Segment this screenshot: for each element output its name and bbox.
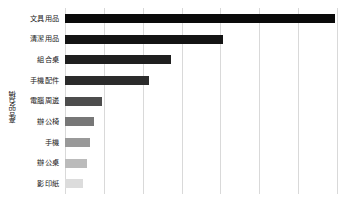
bar <box>65 97 102 106</box>
bar <box>65 35 223 44</box>
y-tick-label: 影印紙 <box>16 173 62 194</box>
y-tick-label: 辦公椅 <box>16 111 62 132</box>
bar-row <box>65 91 337 112</box>
bar-row <box>65 29 337 50</box>
bar-series <box>65 8 337 194</box>
bar-row <box>65 49 337 70</box>
bar <box>65 159 87 168</box>
horizontal-bar-chart: 產品名稱 文具用品 清潔用品 組合桌 手機配件 電腦周邊 辦公椅 手機 辦公桌 … <box>0 0 343 213</box>
bar <box>65 14 335 23</box>
y-tick-label: 文具用品 <box>16 8 62 29</box>
y-tick-label: 電腦周邊 <box>16 91 62 112</box>
y-tick-label: 辦公桌 <box>16 153 62 174</box>
plot-area <box>65 8 337 194</box>
bar-row <box>65 173 337 194</box>
y-tick-label: 手機 <box>16 132 62 153</box>
bar-row <box>65 8 337 29</box>
y-axis-tick-labels: 文具用品 清潔用品 組合桌 手機配件 電腦周邊 辦公椅 手機 辦公桌 影印紙 <box>16 8 62 194</box>
gridline <box>337 8 338 194</box>
bar <box>65 117 94 126</box>
bar <box>65 76 149 85</box>
bar <box>65 55 171 64</box>
y-tick-label: 手機配件 <box>16 70 62 91</box>
y-tick-label: 清潔用品 <box>16 29 62 50</box>
y-tick-label: 組合桌 <box>16 49 62 70</box>
bar <box>65 179 83 188</box>
bar-row <box>65 153 337 174</box>
bar-row <box>65 132 337 153</box>
bar <box>65 138 90 147</box>
bar-row <box>65 111 337 132</box>
bar-row <box>65 70 337 91</box>
